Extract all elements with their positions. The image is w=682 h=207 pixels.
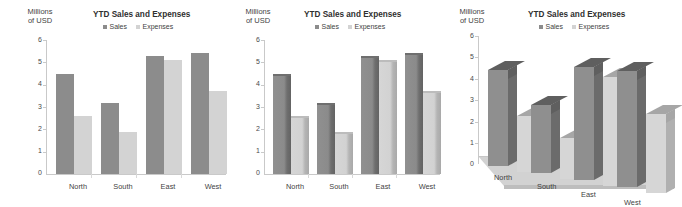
legend-swatch-expenses-icon	[136, 25, 140, 29]
bar-expenses-south	[335, 132, 353, 174]
chart-title: YTD Sales and Expenses	[93, 10, 190, 19]
y-tick-0: 0	[248, 169, 260, 176]
y-tick-4: 4	[30, 80, 42, 87]
chart-title: YTD Sales and Expenses	[304, 10, 401, 19]
legend-item-expenses: Expenses	[348, 23, 385, 30]
legend-item-sales: Sales	[315, 23, 339, 30]
y-tick-5: 5	[462, 53, 474, 60]
bar-sales-west	[405, 53, 423, 174]
plot-area	[264, 40, 440, 174]
legend-label-sales: Sales	[322, 23, 340, 30]
bar-sales-west	[617, 0, 637, 187]
legend-item-sales: Sales	[103, 23, 127, 30]
y-axis-line	[478, 36, 479, 164]
bar-sales-south	[317, 103, 335, 174]
bar-sales-south	[531, 0, 551, 173]
legend-label-expenses: Expenses	[355, 23, 386, 30]
x-tick-east: East	[359, 182, 407, 191]
bar-expenses-east	[164, 60, 182, 174]
bar-sales-north	[488, 0, 508, 166]
chart-panel-perspective-3d: Millions of USD YTD Sales and Expenses S…	[440, 0, 682, 207]
bar-expenses-north	[291, 116, 309, 174]
bar-sales-north	[273, 74, 291, 174]
y-tick-4: 4	[462, 75, 474, 82]
bar-sales-east	[361, 56, 379, 174]
bar-sales-east	[146, 56, 164, 174]
y-tick-3: 3	[30, 103, 42, 110]
y-tick-0: 0	[462, 160, 474, 167]
x-tick-north: North	[54, 182, 102, 191]
y-tick-1: 1	[30, 147, 42, 154]
y-tick-6: 6	[462, 32, 474, 39]
y-tick-6: 6	[30, 36, 42, 43]
y-tick-5: 5	[248, 58, 260, 65]
x-tick-east: East	[144, 182, 192, 191]
y-tick-5: 5	[30, 58, 42, 65]
bar-expenses-north	[74, 116, 92, 174]
bar-sales-west	[191, 53, 209, 174]
legend-swatch-expenses-icon	[348, 25, 352, 29]
x-tick-south: South	[99, 182, 147, 191]
y-tick-3: 3	[462, 96, 474, 103]
bar-sales-east	[574, 0, 594, 180]
bar-expenses-east	[379, 60, 397, 174]
legend-label-sales: Sales	[110, 23, 128, 30]
bar-sales-north	[56, 74, 74, 174]
y-axis-title: Millions of USD	[18, 8, 62, 25]
chart-panel-flat-2d: Millions of USD YTD Sales and Expenses S…	[0, 0, 228, 207]
y-axis-title: Millions of USD	[236, 8, 280, 25]
y-tick-4: 4	[248, 80, 260, 87]
chart-legend: Sales Expenses	[103, 23, 173, 30]
chart-legend: Sales Expenses	[315, 23, 385, 30]
y-tick-2: 2	[30, 125, 42, 132]
y-tick-1: 1	[462, 139, 474, 146]
legend-label-expenses: Expenses	[143, 23, 174, 30]
bar-expenses-west	[209, 91, 227, 174]
legend-swatch-sales-icon	[315, 25, 319, 29]
bar-expenses-south	[119, 132, 137, 174]
bar-expenses-west	[423, 91, 441, 174]
bar-sales-south	[101, 103, 119, 174]
y-tick-0: 0	[30, 169, 42, 176]
plot-area	[46, 40, 226, 174]
x-tick-north: North	[271, 182, 319, 191]
y-tick-1: 1	[248, 147, 260, 154]
x-tick-south: South	[537, 182, 556, 191]
y-tick-2: 2	[248, 125, 260, 132]
legend-item-expenses: Expenses	[136, 23, 173, 30]
chart-panel-beveled-2d: Millions of USD YTD Sales and Expenses S…	[228, 0, 440, 207]
legend-swatch-sales-icon	[103, 25, 107, 29]
x-tick-south: South	[315, 182, 363, 191]
x-tick-north: North	[494, 173, 512, 182]
y-tick-3: 3	[248, 103, 260, 110]
y-tick-2: 2	[462, 118, 474, 125]
chart-gallery: Millions of USD YTD Sales and Expenses S…	[0, 0, 682, 207]
x-tick-east: East	[581, 190, 596, 199]
x-tick-west: West	[624, 198, 641, 207]
y-tick-6: 6	[248, 36, 260, 43]
bar-expenses-west	[646, 0, 666, 193]
